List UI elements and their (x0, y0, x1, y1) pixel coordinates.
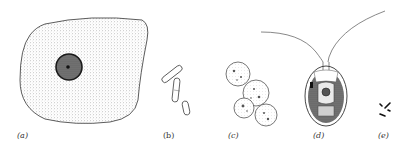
panel-a-cell (20, 18, 148, 124)
panel-label-b: (b) (163, 132, 174, 140)
panel-label-e: (e) (378, 132, 389, 140)
panel-label-c: (c) (228, 132, 239, 140)
panel-d-flagellate (261, 11, 385, 126)
panel-e-particles (380, 103, 390, 116)
panel-c-budding-cells (226, 62, 277, 126)
panel-label-a: (a) (17, 132, 28, 140)
panel-b-rods (161, 64, 191, 115)
panel-label-d: (d) (313, 132, 324, 140)
microorganism-comparison-figure: (a) (b) (c) (d) (e) (0, 0, 404, 149)
